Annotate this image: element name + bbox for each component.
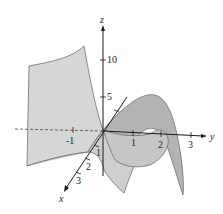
z-tick-label-10: 10 xyxy=(107,54,117,65)
y-tick-label-1: 1 xyxy=(131,137,136,148)
x-axis-arrow-icon xyxy=(64,185,69,192)
y-tick-label-2: 2 xyxy=(158,139,163,150)
y-axis-label: y xyxy=(209,131,215,142)
y-tick-label-neg1: -1 xyxy=(66,135,74,146)
x-axis-label: x xyxy=(58,193,64,204)
surface-plot: z 10 5 y -1 1 2 3 x 1 2 3 xyxy=(0,0,223,214)
z-axis-arrow-icon xyxy=(101,25,105,31)
x-tick-label-2: 2 xyxy=(86,161,91,172)
y-axis-arrow-icon xyxy=(201,134,207,138)
z-axis-label: z xyxy=(99,14,104,25)
x-tick-label-1: 1 xyxy=(96,147,101,158)
y-tick-label-3: 3 xyxy=(188,139,193,150)
z-tick-label-5: 5 xyxy=(107,91,112,102)
x-tick-label-3: 3 xyxy=(76,175,81,186)
